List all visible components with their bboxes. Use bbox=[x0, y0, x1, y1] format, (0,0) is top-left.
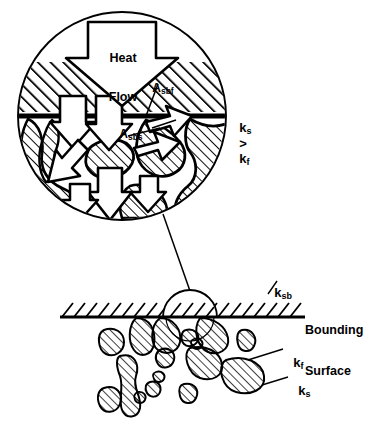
label-kf-sub: f bbox=[246, 157, 249, 167]
label-area-solid-fluid: Asbf bbox=[146, 67, 174, 96]
label-k-s-sub: s bbox=[305, 389, 310, 399]
label-area-solid-fluid-sub: sb bbox=[161, 86, 171, 96]
particle-13 bbox=[179, 384, 197, 403]
label-bounding-surface: Bounding Surface bbox=[305, 297, 363, 392]
label-area-solid-solid: Asbs bbox=[113, 113, 143, 142]
particle-6 bbox=[237, 330, 255, 351]
label-k-f: kf bbox=[286, 340, 303, 371]
particle-16 bbox=[153, 372, 165, 382]
label-area-solid-fluid-sup: f bbox=[171, 86, 174, 96]
particle-15 bbox=[191, 339, 203, 349]
label-area-solid-fluid-base: A bbox=[152, 81, 161, 95]
particle-11 bbox=[98, 387, 121, 412]
label-ks-sub: s bbox=[246, 126, 251, 136]
label-k-sb: ksb bbox=[267, 270, 292, 301]
particle-9 bbox=[156, 349, 174, 368]
particle-14 bbox=[134, 392, 145, 403]
particle-12 bbox=[146, 382, 161, 397]
label-k-s: ks bbox=[291, 368, 310, 399]
heat-flow-label: Heat Flow bbox=[95, 26, 151, 117]
label-k-sb-sub: sb bbox=[281, 291, 292, 301]
label-inequality-operator: > bbox=[239, 136, 247, 151]
label-area-solid-solid-sub: sb bbox=[128, 132, 138, 142]
particle-8 bbox=[221, 358, 264, 393]
label-area-solid-solid-sup: s bbox=[138, 132, 143, 142]
label-bounding-surface-line1: Bounding bbox=[305, 324, 363, 338]
heat-flow-label-line2: Flow bbox=[95, 91, 151, 104]
particle-4 bbox=[99, 329, 124, 356]
label-conductivity-inequality: ks > kf bbox=[232, 105, 251, 167]
label-bounding-surface-line2: Surface bbox=[305, 365, 363, 379]
label-area-solid-solid-base: A bbox=[119, 127, 128, 141]
heat-flow-label-line1: Heat bbox=[95, 52, 151, 65]
